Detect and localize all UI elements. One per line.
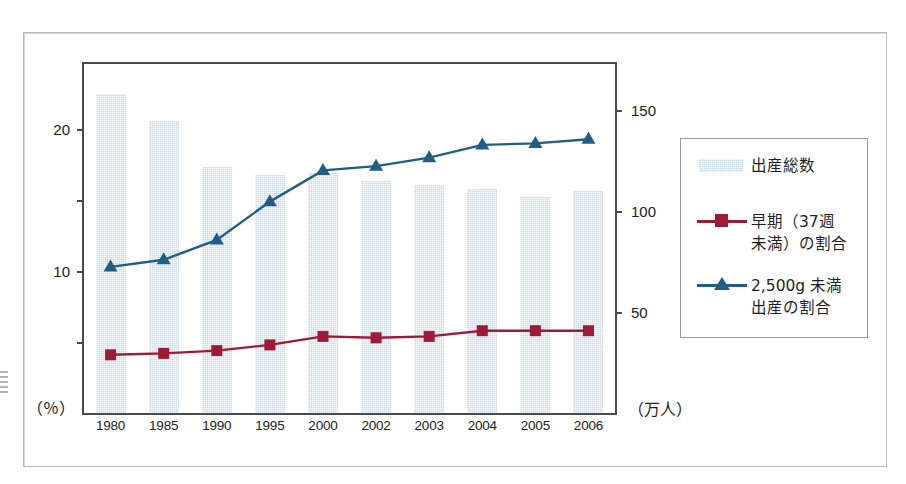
marker-1985 [158,348,169,359]
x-label-2006: 2006 [574,418,603,433]
x-label-2004: 2004 [468,418,497,433]
left-tick-10 [77,271,84,273]
right-axis-unit-label: （万人） [628,396,692,420]
legend-item-preterm-rate: 早期（37週 未満）の割合 [695,211,847,255]
right-tick-150 [615,110,622,112]
marker-2002 [371,332,382,343]
marker-2004 [477,325,488,336]
x-label-2003: 2003 [415,418,444,433]
plot-inner [84,64,615,413]
marker-2003 [424,331,435,342]
marker-2004 [475,137,489,149]
legend-key-triangle-line [695,275,751,295]
right-axis-label-150: 150 [631,102,656,119]
x-axis-labels: 1980198519901995200020022003200420052006 [82,418,617,444]
right-tick-50 [615,312,622,314]
left-axis-unit-label: （％） [27,395,75,419]
marker-2006 [582,132,596,144]
legend-label-preterm-rate: 早期（37週 未満）の割合 [751,211,847,255]
x-label-1995: 1995 [255,418,284,433]
left-tick-5 [77,342,84,344]
marker-1995 [264,339,275,350]
left-tick-20 [77,129,84,131]
marker-2006 [583,325,594,336]
triangle-marker-icon [714,277,730,290]
legend-key-square-line [695,211,751,231]
right-tick-100 [615,211,622,213]
left-tick-15 [77,200,84,202]
marker-1990 [211,345,222,356]
legend: 出産総数 早期（37週 未満）の割合 2,500g 未満 出産の割合 [680,138,868,338]
chart-screenshot: 201015010050 198019851990199520002002200… [0,0,906,484]
square-marker-icon [715,214,728,227]
marker-1995 [263,194,277,206]
left-axis-label-20: 20 [53,121,70,138]
marker-1980 [105,349,116,360]
x-label-2005: 2005 [521,418,550,433]
plot-area [82,62,617,415]
marker-2005 [530,325,541,336]
legend-item-lowbirthweight-rate: 2,500g 未満 出産の割合 [695,275,842,319]
marker-1990 [210,233,224,245]
line-lowbirthweight [111,139,589,267]
line-preterm [111,331,589,355]
x-label-2000: 2000 [308,418,337,433]
x-label-1985: 1985 [149,418,178,433]
legend-label-lowbirthweight-rate: 2,500g 未満 出産の割合 [751,275,842,319]
right-axis-label-50: 50 [631,304,648,321]
lines-layer [84,64,615,413]
x-label-2002: 2002 [361,418,390,433]
marker-2000 [318,331,329,342]
right-axis-label-100: 100 [631,203,656,220]
x-label-1980: 1980 [96,418,125,433]
legend-label-births-total: 出産総数 [751,155,815,177]
x-label-1990: 1990 [202,418,231,433]
left-axis-label-10: 10 [53,263,70,280]
bar-swatch-icon [699,159,743,172]
scan-edge-artifact [0,371,8,393]
legend-key-bar [695,155,751,175]
legend-item-births-total: 出産総数 [695,155,815,177]
